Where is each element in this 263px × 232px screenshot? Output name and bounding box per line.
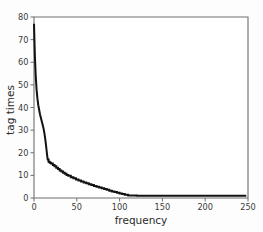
y-tick-label: 30 bbox=[18, 125, 28, 135]
plot-area-background bbox=[34, 17, 248, 198]
y-tick-label: 50 bbox=[18, 80, 28, 90]
y-tick-label: 70 bbox=[18, 35, 28, 45]
x-tick-label: 200 bbox=[197, 202, 213, 212]
y-tick-label: 40 bbox=[18, 103, 28, 113]
x-tick-label: 50 bbox=[72, 202, 82, 212]
y-tick-label: 80 bbox=[18, 12, 28, 22]
x-tick-label: 0 bbox=[31, 202, 36, 212]
x-tick-label: 250 bbox=[240, 202, 256, 212]
y-tick-label: 20 bbox=[18, 148, 28, 158]
y-axis-tick-labels: 01020304050607080 bbox=[18, 12, 28, 203]
y-tick-label: 0 bbox=[23, 193, 28, 203]
chart-svg: 050100150200250 01020304050607080 freque… bbox=[0, 0, 263, 232]
chart-figure: 050100150200250 01020304050607080 freque… bbox=[0, 0, 263, 232]
x-tick-label: 150 bbox=[155, 202, 171, 212]
y-tick-label: 10 bbox=[18, 170, 28, 180]
y-tick-label: 60 bbox=[18, 57, 28, 67]
x-axis-title: frequency bbox=[115, 214, 168, 226]
y-axis-title: tag times bbox=[4, 85, 16, 135]
x-tick-label: 100 bbox=[112, 202, 128, 212]
